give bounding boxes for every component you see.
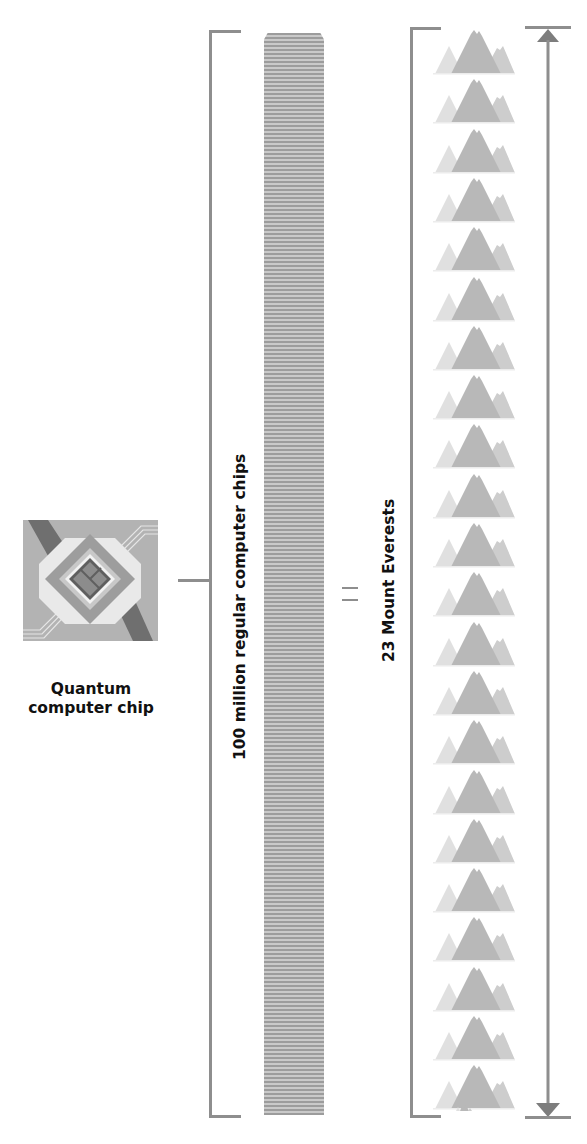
- quantum-chip-label-line1: Quantum: [0, 680, 182, 699]
- mountain-icon: [433, 77, 515, 125]
- mountain-icon: [433, 422, 515, 470]
- quantum-chip-icon: [23, 520, 158, 641]
- mountain-icon: [433, 817, 515, 865]
- mountain-icon: [433, 275, 515, 323]
- right-bracket-bottom: [410, 1115, 441, 1118]
- double-headed-arrow-icon: [525, 26, 571, 1120]
- mountain-icon: [433, 28, 515, 76]
- left-bracket-bottom: [209, 1115, 241, 1118]
- mountain-icon: [433, 324, 515, 372]
- left-bracket-vertical: [209, 30, 212, 1118]
- mountain-icon: [433, 1014, 515, 1062]
- mountain-icon: [433, 127, 515, 175]
- mountain-icon: [433, 620, 515, 668]
- mountain-icon: [433, 225, 515, 273]
- quantum-chip-label-line2: computer chip: [0, 699, 182, 718]
- right-bracket-vertical: [410, 27, 413, 1118]
- chip-connector-line: [178, 579, 210, 582]
- mountain-icon: [433, 472, 515, 520]
- equals-sign-icon: [342, 586, 358, 602]
- mountain-icon: [433, 768, 515, 816]
- mountain-icon: [433, 521, 515, 569]
- mountain-icon: [433, 866, 515, 914]
- mountain-icon: [433, 176, 515, 224]
- mountain-icon: [433, 965, 515, 1013]
- chip-stack-icon: [264, 33, 324, 1115]
- mountain-icon: [433, 669, 515, 717]
- mountain-icon: [433, 718, 515, 766]
- regular-chips-label: 100 million regular computer chips: [231, 454, 249, 760]
- mountain-icon-partial: [443, 1063, 483, 1111]
- left-bracket-top: [209, 30, 241, 33]
- mountain-icon: [433, 570, 515, 618]
- quantum-chip-label: Quantum computer chip: [0, 680, 182, 718]
- mountain-icon: [433, 915, 515, 963]
- everests-label: 23 Mount Everests: [380, 499, 398, 662]
- mountain-icon: [433, 373, 515, 421]
